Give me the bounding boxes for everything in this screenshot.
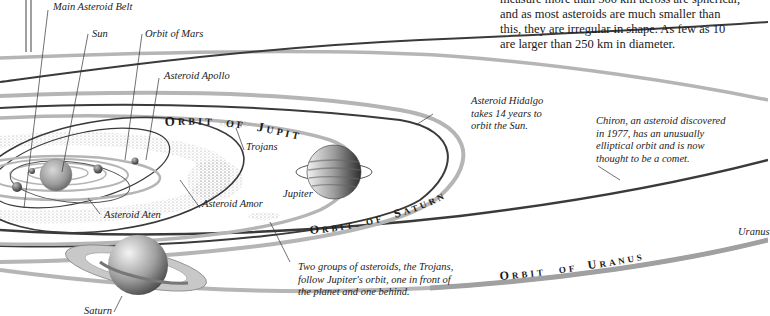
label-uranus: Uranus xyxy=(738,226,770,239)
mars xyxy=(132,158,139,165)
label-sun: Sun xyxy=(92,28,108,41)
label-asteroid-amor: Asteroid Amor xyxy=(202,198,263,211)
note-chiron-line-2: in 1977, has an unusually xyxy=(596,128,726,141)
margin-rule xyxy=(26,0,31,52)
label-orbit-of-mars: Orbit of Mars xyxy=(145,28,203,41)
note-chiron-line-1: Chiron, an asteroid discovered xyxy=(596,115,726,128)
note-trojans-line-3: the planet and one behind. xyxy=(298,286,453,299)
note-trojans-line-2: follow Jupiter's orbit, one in front of xyxy=(298,274,453,287)
note-hidalgo-line-1: Asteroid Hidalgo xyxy=(471,95,543,108)
venus xyxy=(94,165,103,174)
label-jupiter: Jupiter xyxy=(283,188,313,201)
earth xyxy=(12,182,22,192)
label-asteroid-apollo: Asteroid Apollo xyxy=(164,70,230,83)
label-trojans: Trojans xyxy=(246,141,278,154)
saturn-planet xyxy=(62,235,210,301)
note-trojans: Two groups of asteroids, the Trojans, fo… xyxy=(298,261,453,299)
sun xyxy=(40,159,72,191)
intro-line-2: and as most asteroids are much smaller t… xyxy=(500,7,740,22)
intro-line-4: are larger than 250 km in diameter. xyxy=(500,37,740,52)
intro-paragraph: measure more than 300 km across are sphe… xyxy=(500,0,740,52)
note-chiron: Chiron, an asteroid discovered in 1977, … xyxy=(596,115,726,165)
label-main-asteroid-belt: Main Asteroid Belt xyxy=(53,1,132,14)
label-asteroid-aten: Asteroid Aten xyxy=(104,209,161,222)
note-hidalgo-line-2: takes 14 years to xyxy=(471,108,543,121)
orbit-jupiter-title: ORBIT OF JUPITER xyxy=(0,0,303,142)
label-saturn: Saturn xyxy=(84,305,112,316)
trojans-trailing xyxy=(248,212,280,220)
note-hidalgo: Asteroid Hidalgo takes 14 years to orbit… xyxy=(471,95,543,133)
note-chiron-line-3: elliptical orbit and is now xyxy=(596,140,726,153)
intro-line-1: measure more than 300 km across are sphe… xyxy=(500,0,740,7)
intro-line-3: this, they are irregular in shape. As fe… xyxy=(500,22,740,37)
note-chiron-line-4: thought to be a comet. xyxy=(596,153,726,166)
note-hidalgo-line-3: orbit the Sun. xyxy=(471,120,543,133)
note-trojans-line-1: Two groups of asteroids, the Trojans, xyxy=(298,261,453,274)
mercury xyxy=(29,168,35,174)
